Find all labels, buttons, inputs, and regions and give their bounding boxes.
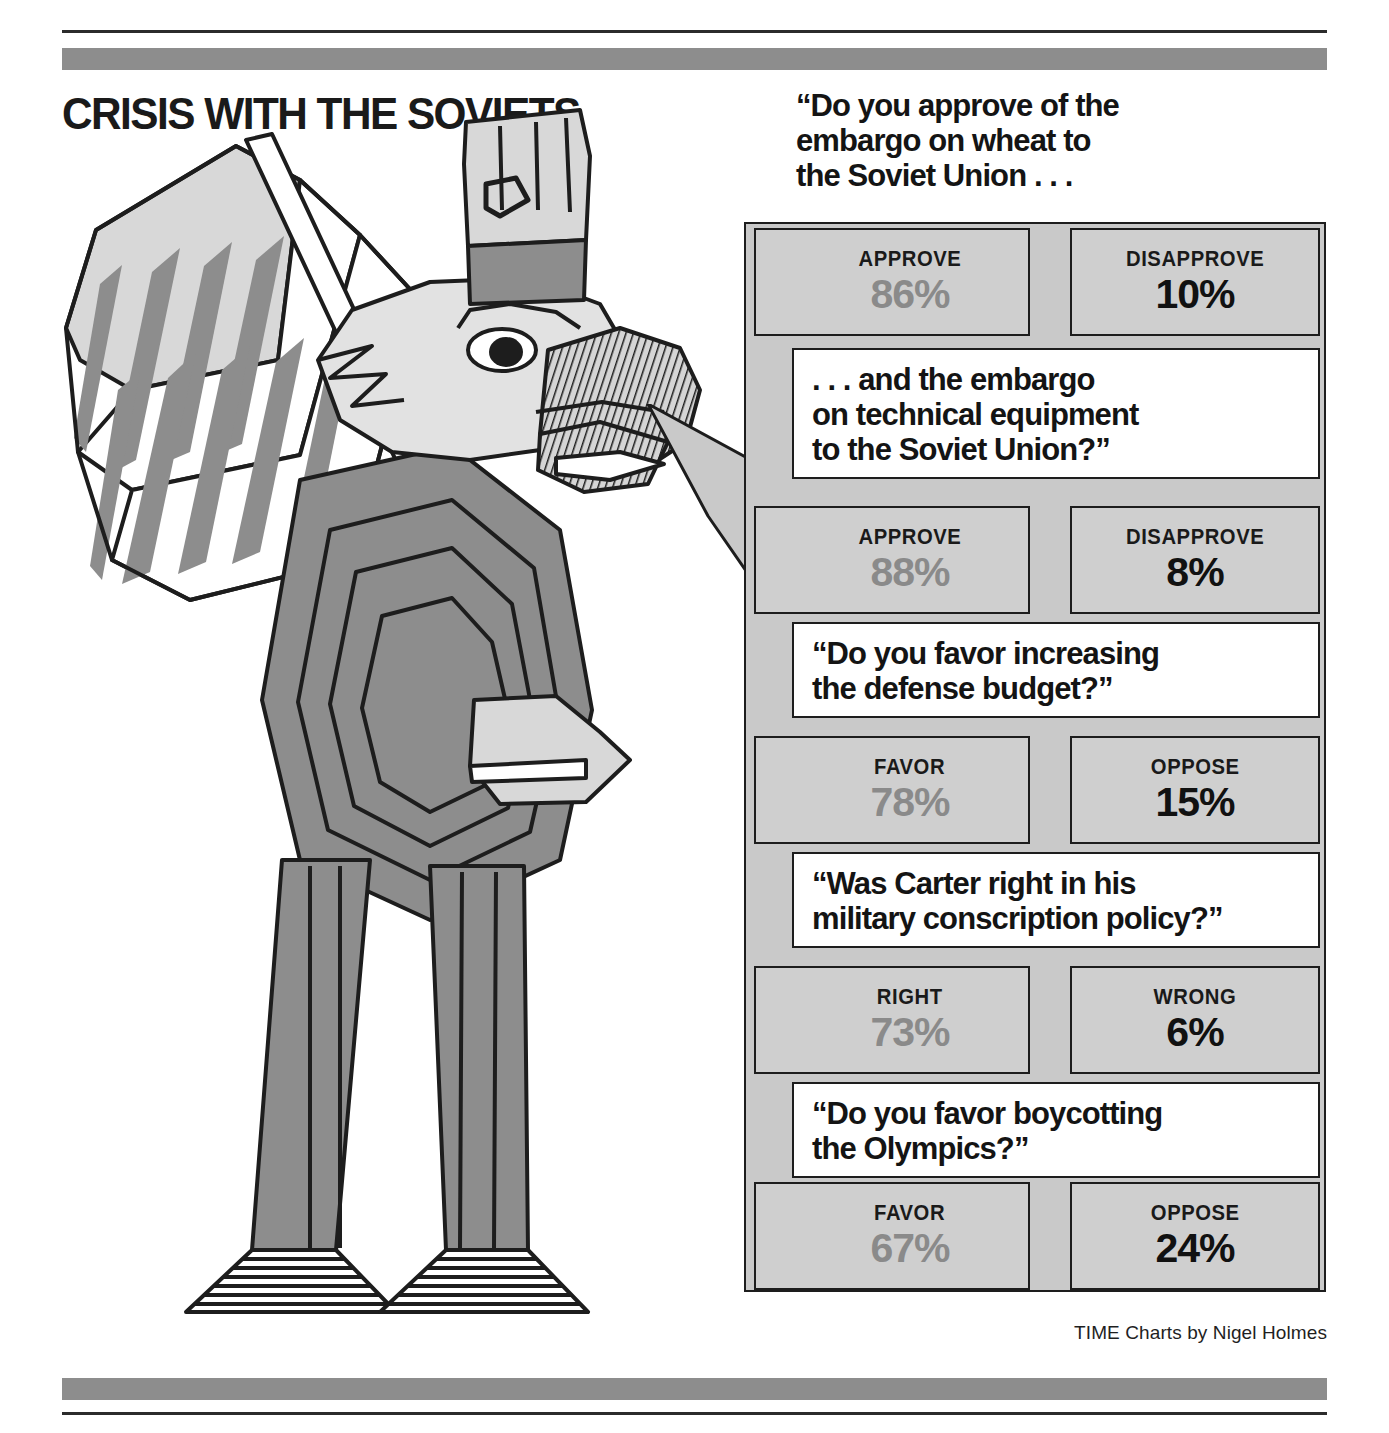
- result-box-favor-5: FAVOR 67%: [754, 1182, 1030, 1290]
- speech-bubble-tail: [612, 404, 762, 594]
- question-line: “Do you favor boycotting: [812, 1096, 1318, 1131]
- raised-fist-crest: [464, 110, 590, 304]
- question-block-4: “Was Carter right in his military conscr…: [792, 852, 1320, 948]
- result-box-disapprove-1: DISAPPROVE 10%: [1070, 228, 1320, 336]
- credit-line: TIME Charts by Nigel Holmes: [1074, 1322, 1327, 1344]
- result-value: 6%: [1166, 1010, 1223, 1054]
- result-label: FAVOR: [875, 756, 946, 778]
- result-value: 24%: [1155, 1226, 1234, 1270]
- result-value: 78%: [870, 780, 949, 824]
- result-label: RIGHT: [877, 986, 943, 1008]
- result-row-4: RIGHT 73% WRONG 6%: [746, 966, 1328, 1074]
- question-line: the Soviet Union . . .: [796, 158, 1336, 193]
- result-value: 86%: [870, 272, 949, 316]
- result-row-1: APPROVE 86% DISAPPROVE 10%: [746, 228, 1328, 336]
- question-block-5: “Do you favor boycotting the Olympics?”: [792, 1082, 1320, 1178]
- result-label: FAVOR: [875, 1202, 946, 1224]
- result-row-3: FAVOR 78% OPPOSE 15%: [746, 736, 1328, 844]
- infographic-page: CRISIS WITH THE SOVIETS: [0, 0, 1389, 1433]
- result-box-oppose-5: OPPOSE 24%: [1070, 1182, 1320, 1290]
- result-row-5: FAVOR 67% OPPOSE 24%: [746, 1182, 1328, 1290]
- result-value: 8%: [1166, 550, 1223, 594]
- result-label: APPROVE: [859, 248, 962, 270]
- eagle-illustration: [0, 60, 760, 1350]
- result-box-approve-1: APPROVE 86%: [754, 228, 1030, 336]
- result-value: 10%: [1155, 272, 1234, 316]
- result-box-approve-2: APPROVE 88%: [754, 506, 1030, 614]
- bottom-hairline-rule: [62, 1412, 1327, 1415]
- result-label: APPROVE: [859, 526, 962, 548]
- question-line: “Was Carter right in his: [812, 866, 1318, 901]
- question-line: embargo on wheat to: [796, 123, 1336, 158]
- result-box-favor-3: FAVOR 78%: [754, 736, 1030, 844]
- question-block-3: “Do you favor increasing the defense bud…: [792, 622, 1320, 718]
- poll-results-panel: APPROVE 86% DISAPPROVE 10% . . . and the…: [744, 222, 1326, 1292]
- eagle-body: [262, 446, 592, 920]
- result-label: OPPOSE: [1151, 756, 1240, 778]
- result-row-2: APPROVE 88% DISAPPROVE 8%: [746, 506, 1328, 614]
- question-line: . . . and the embargo: [812, 362, 1318, 397]
- bottom-gray-bar: [62, 1378, 1327, 1400]
- result-value: 88%: [870, 550, 949, 594]
- question-line: the defense budget?”: [812, 671, 1318, 706]
- question-line: “Do you favor increasing: [812, 636, 1318, 671]
- result-box-disapprove-2: DISAPPROVE 8%: [1070, 506, 1320, 614]
- result-value: 73%: [870, 1010, 949, 1054]
- question-line: “Do you approve of the: [796, 88, 1336, 123]
- top-hairline-rule: [62, 30, 1327, 33]
- eagle-feet: [186, 1250, 588, 1312]
- question-block-2: . . . and the embargo on technical equip…: [792, 348, 1320, 479]
- eagle-legs: [252, 860, 528, 1250]
- result-value: 67%: [870, 1226, 949, 1270]
- question-line: the Olympics?”: [812, 1131, 1318, 1166]
- result-value: 15%: [1155, 780, 1234, 824]
- result-box-wrong-4: WRONG 6%: [1070, 966, 1320, 1074]
- result-box-right-4: RIGHT 73%: [754, 966, 1030, 1074]
- result-label: WRONG: [1154, 986, 1237, 1008]
- question-line: military conscription policy?”: [812, 901, 1318, 936]
- result-label: DISAPPROVE: [1126, 526, 1264, 548]
- question-block-1: “Do you approve of the embargo on wheat …: [796, 88, 1336, 193]
- eagle-hand: [470, 696, 630, 804]
- result-label: DISAPPROVE: [1126, 248, 1264, 270]
- result-box-oppose-3: OPPOSE 15%: [1070, 736, 1320, 844]
- question-line: on technical equipment: [812, 397, 1318, 432]
- result-label: OPPOSE: [1151, 1202, 1240, 1224]
- question-line: to the Soviet Union?”: [812, 432, 1318, 467]
